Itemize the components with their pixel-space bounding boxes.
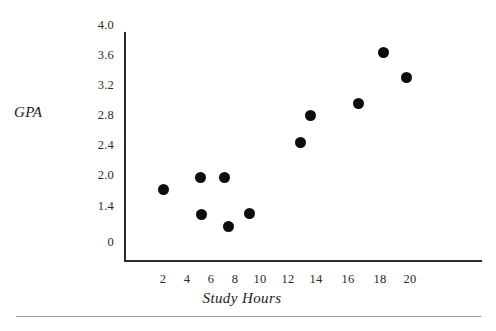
x-tick-label: 14 (301, 272, 331, 287)
x-axis-title: Study Hours (0, 290, 490, 307)
bottom-divider (16, 316, 481, 317)
x-tick-label: 16 (333, 272, 363, 287)
x-tick-label: 10 (245, 272, 275, 287)
x-tick-label: 18 (365, 272, 395, 287)
x-tick-label: 12 (273, 272, 303, 287)
x-tick-label: 20 (395, 272, 425, 287)
scatter-plot-figure: GPA 4.03.63.22.82.42.01.40 2468101214161… (0, 0, 496, 331)
x-axis-tick-labels: 2468101214161820 (0, 0, 496, 331)
